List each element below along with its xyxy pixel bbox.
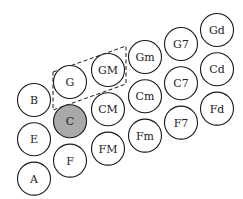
chord-button-gm[interactable]: Gm bbox=[129, 41, 162, 74]
chord-label: C bbox=[66, 115, 74, 128]
chord-button-c[interactable]: C bbox=[54, 105, 87, 138]
chord-label: FM bbox=[99, 143, 118, 156]
chord-label: F bbox=[66, 155, 74, 168]
chord-label: G bbox=[66, 76, 75, 89]
chord-button-fd[interactable]: Fd bbox=[201, 92, 234, 125]
chord-button-cd[interactable]: Cd bbox=[201, 53, 234, 86]
chord-label: Cm bbox=[136, 90, 155, 103]
chord-button-gm[interactable]: GM bbox=[92, 54, 125, 87]
chord-label: CM bbox=[98, 103, 118, 116]
chord-button-fm[interactable]: FM bbox=[92, 132, 125, 165]
chord-button-cm[interactable]: CM bbox=[92, 93, 125, 126]
chord-button-gd[interactable]: Gd bbox=[201, 14, 234, 47]
chord-label: GM bbox=[98, 64, 118, 77]
chord-button-c7[interactable]: C7 bbox=[165, 67, 198, 100]
chord-button-f7[interactable]: F7 bbox=[165, 106, 198, 139]
chord-label: F7 bbox=[174, 117, 189, 130]
chord-label: E bbox=[30, 133, 38, 146]
chord-button-cm[interactable]: Cm bbox=[129, 80, 162, 113]
chord-button-g7[interactable]: G7 bbox=[165, 28, 198, 61]
chord-button-fm[interactable]: Fm bbox=[129, 119, 162, 152]
chord-button-b[interactable]: B bbox=[18, 84, 51, 117]
chord-button-e[interactable]: E bbox=[18, 123, 51, 156]
chord-label: C7 bbox=[173, 77, 188, 90]
chord-button-a[interactable]: A bbox=[18, 162, 51, 195]
chord-label: Cd bbox=[209, 63, 224, 76]
chord-label: Fd bbox=[210, 103, 225, 116]
chord-label: B bbox=[30, 94, 38, 107]
chord-label: Gm bbox=[135, 51, 155, 64]
chord-label: A bbox=[29, 173, 39, 186]
chord-button-diagram: BEAGCFGMCMFMGmCmFmG7C7F7GdCdFd bbox=[0, 0, 243, 199]
chord-buttons: BEAGCFGMCMFMGmCmFmG7C7F7GdCdFd bbox=[18, 14, 234, 196]
chord-label: Fm bbox=[136, 130, 155, 143]
chord-label: G7 bbox=[173, 38, 189, 51]
chord-button-f[interactable]: F bbox=[54, 144, 87, 177]
chord-button-g[interactable]: G bbox=[54, 66, 87, 99]
chord-label: Gd bbox=[209, 24, 225, 37]
